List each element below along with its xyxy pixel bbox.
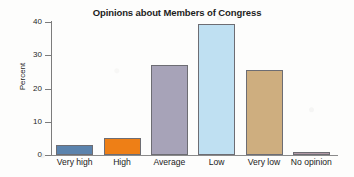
x-label-no-opinion: No opinion [280, 158, 343, 167]
bar-high [104, 138, 141, 155]
bar-low [198, 24, 235, 155]
chart-figure: Opinions about Members of Congress 0 10 … [0, 0, 354, 177]
y-tick-mark-0 [45, 155, 51, 156]
bar-no-opinion [293, 152, 330, 155]
x-axis-line [51, 155, 338, 156]
bar-very-low [246, 70, 283, 155]
bar-average [151, 65, 188, 155]
y-axis-label: Percent [18, 47, 27, 107]
y-tick-label-0: 0 [16, 151, 42, 159]
plot-area [51, 22, 335, 155]
chart-title: Opinions about Members of Congress [0, 7, 354, 18]
y-tick-label-10: 10 [16, 118, 42, 126]
y-tick-label-40: 40 [16, 18, 42, 26]
bar-very-high [56, 145, 93, 155]
